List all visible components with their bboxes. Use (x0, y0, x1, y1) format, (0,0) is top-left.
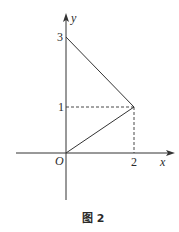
tick-label-x-2: 2 (131, 155, 137, 169)
y-axis-label: y (70, 11, 77, 25)
x-axis-label: x (159, 155, 166, 169)
coordinate-diagram: y 3 1 O 2 x 图 2 (0, 0, 179, 232)
figure-caption: 图 2 (82, 212, 104, 225)
origin-label: O (55, 154, 64, 168)
tick-label-y-3: 3 (57, 30, 63, 44)
segment-a-b (66, 37, 134, 107)
tick-label-y-1: 1 (58, 100, 64, 114)
segment-o-b (66, 107, 134, 153)
